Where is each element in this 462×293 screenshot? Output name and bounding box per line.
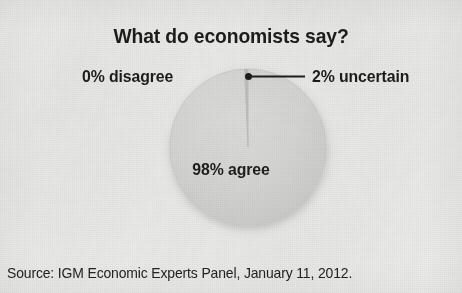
source-note: Source: IGM Economic Experts Panel, Janu… — [7, 264, 352, 281]
slice-label-uncertain: 2% uncertain — [312, 67, 409, 87]
slice-label-agree: 98% agree — [16, 160, 446, 180]
slice-label-disagree: 0% disagree — [82, 67, 173, 87]
chart-title: What do economists say? — [18, 24, 443, 48]
chart-figure: What do economists say? 0% disagree 2% u… — [0, 0, 462, 293]
callout-dot — [245, 73, 252, 80]
